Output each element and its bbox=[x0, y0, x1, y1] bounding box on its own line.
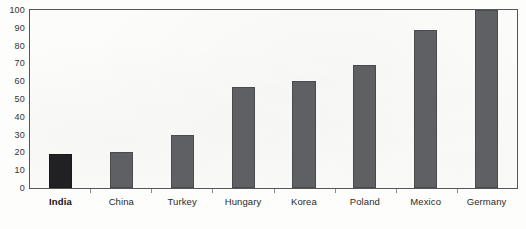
x-axis-tick-mark bbox=[396, 189, 397, 193]
bar-germany[interactable] bbox=[475, 10, 498, 188]
bar-slot bbox=[213, 10, 274, 188]
bar-slot bbox=[30, 10, 91, 188]
bar-chart: 0102030405060708090100 IndiaChinaTurkeyH… bbox=[0, 0, 526, 229]
x-axis-label-mexico: Mexico bbox=[395, 196, 456, 216]
x-axis-label-poland: Poland bbox=[334, 196, 395, 216]
bar-slot bbox=[152, 10, 213, 188]
x-axis-tick-mark bbox=[274, 189, 275, 193]
bar-india[interactable] bbox=[49, 154, 72, 188]
x-axis-label-china: China bbox=[91, 196, 152, 216]
y-axis-tick-label: 60 bbox=[15, 76, 25, 86]
y-axis-tick-label: 20 bbox=[15, 147, 25, 157]
bar-slot bbox=[274, 10, 335, 188]
x-axis-tick-mark bbox=[212, 189, 213, 193]
y-axis-tick-label: 10 bbox=[15, 165, 25, 175]
bar-poland[interactable] bbox=[353, 65, 376, 188]
x-axis-tick-mark bbox=[151, 189, 152, 193]
bar-slot bbox=[334, 10, 395, 188]
x-axis-label-turkey: Turkey bbox=[152, 196, 213, 216]
x-axis-category-labels: IndiaChinaTurkeyHungaryKoreaPolandMexico… bbox=[30, 196, 517, 216]
y-axis-tick-label: 30 bbox=[15, 130, 25, 140]
bar-korea[interactable] bbox=[292, 81, 315, 188]
x-axis-tick-mark bbox=[457, 189, 458, 193]
bar-slot bbox=[91, 10, 152, 188]
y-axis-tick-label: 0 bbox=[20, 183, 25, 193]
x-axis-label-india: India bbox=[30, 196, 91, 216]
y-axis-tick-label: 90 bbox=[15, 23, 25, 33]
x-axis-label-hungary: Hungary bbox=[213, 196, 274, 216]
x-axis-label-germany: Germany bbox=[456, 196, 517, 216]
bar-slot bbox=[456, 10, 517, 188]
y-axis-tick-label: 80 bbox=[15, 41, 25, 51]
bars-container bbox=[30, 10, 517, 188]
y-axis-tick-label: 40 bbox=[15, 112, 25, 122]
y-axis-tick-label: 100 bbox=[9, 5, 25, 15]
x-axis-tick-mark bbox=[90, 189, 91, 193]
y-axis-tick-label: 50 bbox=[15, 94, 25, 104]
bar-mexico[interactable] bbox=[414, 30, 437, 188]
x-axis-tick-mark bbox=[335, 189, 336, 193]
bar-slot bbox=[395, 10, 456, 188]
y-axis-tick-label: 70 bbox=[15, 58, 25, 68]
x-axis-tick-marks bbox=[29, 189, 518, 194]
x-axis-label-korea: Korea bbox=[274, 196, 335, 216]
y-axis-tick-labels: 0102030405060708090100 bbox=[0, 9, 25, 189]
bar-hungary[interactable] bbox=[232, 87, 255, 188]
bar-china[interactable] bbox=[110, 152, 133, 188]
bar-turkey[interactable] bbox=[171, 135, 194, 188]
